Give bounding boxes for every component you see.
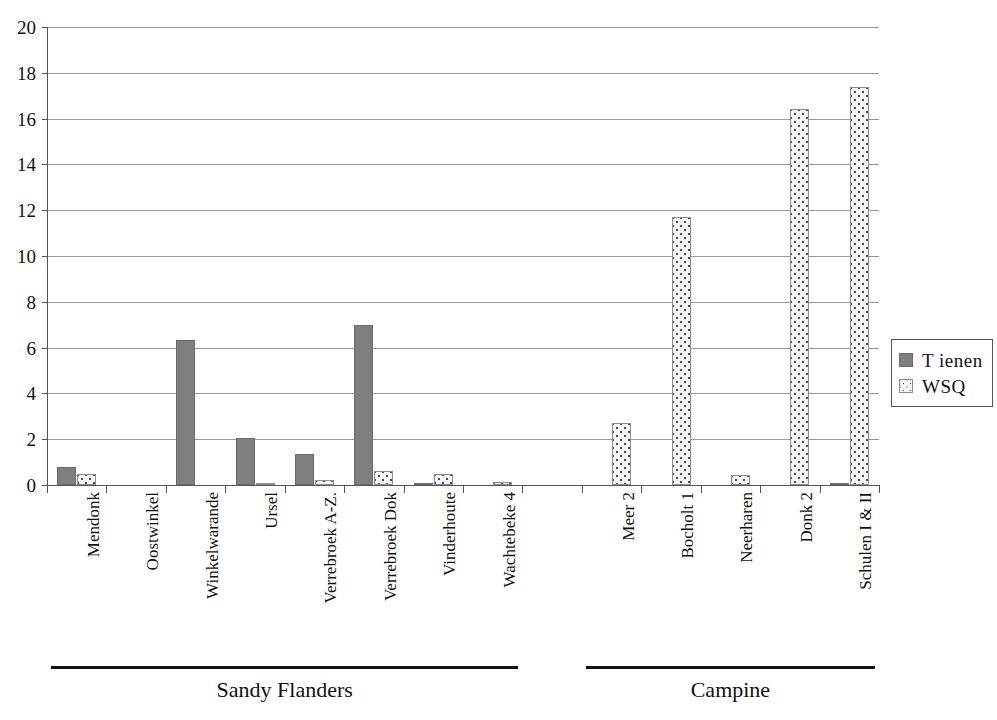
x-axis-tick-label: Neerharen (738, 492, 755, 563)
y-axis-tick-label: 0 (0, 476, 36, 495)
legend-swatch-tienen (899, 353, 913, 367)
bar-wsq (434, 474, 453, 485)
legend-item-tienen: T ienen (899, 347, 983, 373)
bar-wsq (77, 474, 96, 485)
x-axis-tick (285, 486, 286, 493)
gridline (47, 256, 879, 257)
gridline (47, 393, 879, 394)
x-axis-tick (404, 486, 405, 493)
bar-wsq (850, 87, 869, 485)
x-axis-tick (582, 486, 583, 493)
plot-area (47, 27, 879, 485)
x-axis-tick-label: Vinderhoute (441, 492, 458, 576)
bar-chart: 02468101214161820 MendonkOostwinkelWinke… (0, 0, 997, 720)
bar-wsq (374, 471, 393, 485)
y-axis-line (47, 27, 48, 486)
legend-item-wsq: WSQ (899, 373, 983, 399)
bar-tienen (236, 438, 255, 485)
chart-legend: T ienen WSQ (891, 339, 993, 407)
y-axis-tick-label: 12 (0, 201, 36, 220)
bar-wsq (672, 217, 691, 485)
legend-swatch-wsq (899, 379, 913, 393)
x-axis-tick (879, 486, 880, 493)
y-axis-tick-label: 20 (0, 18, 36, 37)
x-axis-tick (522, 486, 523, 493)
x-axis-tick (760, 486, 761, 493)
gridline (47, 119, 879, 120)
x-axis-tick (225, 486, 226, 493)
x-axis-tick-label: Mendonk (85, 492, 102, 557)
y-axis-tick-label: 18 (0, 64, 36, 83)
gridline (47, 73, 879, 74)
legend-label-tienen: T ienen (922, 351, 983, 370)
bar-tienen (295, 454, 314, 485)
group-rule (51, 666, 518, 669)
x-axis-tick-label: Winkelwarande (204, 492, 221, 599)
x-axis-tick-label: Ursel (263, 492, 280, 529)
gridline (47, 210, 879, 211)
x-axis-tick-label: Bocholt 1 (679, 492, 696, 559)
group-label: Campine (586, 678, 875, 702)
x-axis-tick-label: Verrebroek A-Z. (322, 492, 339, 603)
x-axis-tick-label: Wachtebeke 4 (501, 492, 518, 587)
x-axis-tick (701, 486, 702, 493)
x-axis-tick (344, 486, 345, 493)
y-axis-tick-label: 6 (0, 339, 36, 358)
bar-tienen (57, 467, 76, 485)
y-axis-tick-label: 8 (0, 293, 36, 312)
group-rule (586, 666, 875, 669)
gridline (47, 27, 879, 28)
x-axis-tick (166, 486, 167, 493)
x-axis-tick-label: Meer 2 (620, 492, 637, 541)
bar-wsq (790, 109, 809, 485)
bar-tienen (354, 325, 373, 485)
bar-wsq (612, 423, 631, 485)
x-axis-tick-label: Schulen I & II (857, 492, 874, 590)
x-axis-tick-label: Oostwinkel (144, 492, 161, 570)
x-axis-tick (463, 486, 464, 493)
group-label: Sandy Flanders (51, 678, 518, 702)
y-axis-tick-label: 10 (0, 247, 36, 266)
bar-tienen (176, 340, 195, 485)
y-axis-tick-label: 16 (0, 110, 36, 129)
gridline (47, 439, 879, 440)
legend-label-wsq: WSQ (922, 377, 966, 396)
x-axis-tick (641, 486, 642, 493)
y-axis-tick-label: 2 (0, 430, 36, 449)
x-axis-tick-label: Verrebroek Dok (382, 492, 399, 601)
gridline (47, 348, 879, 349)
y-axis-tick-label: 4 (0, 384, 36, 403)
gridline (47, 302, 879, 303)
x-axis-tick (820, 486, 821, 493)
x-axis-tick (106, 486, 107, 493)
gridline (47, 164, 879, 165)
y-axis-tick-label: 14 (0, 155, 36, 174)
x-axis-tick-label: Donk 2 (798, 492, 815, 543)
bar-wsq (731, 475, 750, 485)
x-axis-tick (47, 486, 48, 493)
